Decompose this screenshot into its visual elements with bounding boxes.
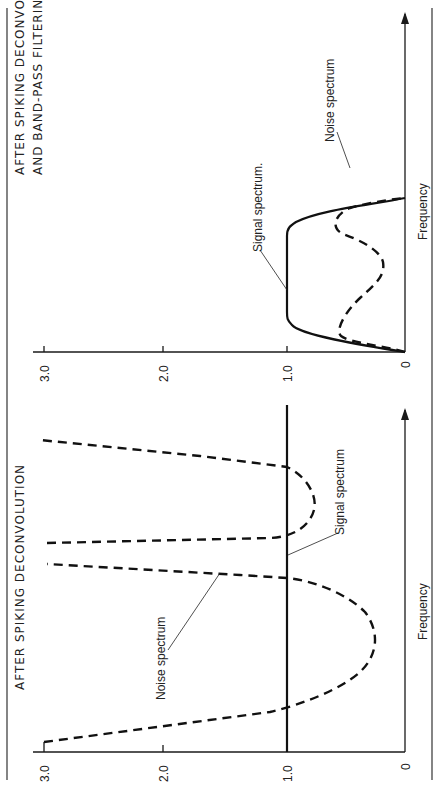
top-noise-curve <box>336 198 405 352</box>
bottom-noise-curve-lobe1 <box>44 564 375 742</box>
top-signal-label: Signal spectrum. <box>251 163 265 252</box>
top-panel-title-line1: AFTER SPIKING DECONVOLUTION <box>13 0 27 175</box>
top-signal-leader <box>260 250 287 290</box>
bottom-frequency-label: Frequency <box>416 583 430 640</box>
top-tick-label-3: 3.0 <box>38 365 52 382</box>
bottom-tick-label-2: 2.0 <box>157 765 171 782</box>
bottom-tick-label-3: 3.0 <box>38 765 52 782</box>
figure-canvas: AFTER SPIKING DECONVOLUTION AND BAND-PAS… <box>0 0 439 790</box>
top-panel: AFTER SPIKING DECONVOLUTION AND BAND-PAS… <box>13 0 430 382</box>
top-tick-label-1: 1.0 <box>281 365 295 382</box>
top-frequency-arrow-icon <box>401 12 409 24</box>
bottom-panel: AFTER SPIKING DECONVOLUTION 3.0 2.0 1.0 … <box>13 405 430 782</box>
bottom-frequency-arrow-icon <box>401 408 409 420</box>
top-noise-label: Noise spectrum <box>323 59 337 142</box>
bottom-tick-label-0: 0 <box>399 763 413 770</box>
top-signal-curve <box>287 198 405 352</box>
top-frequency-label: Frequency <box>416 183 430 240</box>
top-panel-title-line2: AND BAND-PASS FILTERING <box>31 0 45 175</box>
bottom-noise-label: Noise spectrum <box>154 617 168 700</box>
bottom-signal-label: Signal spectrum <box>333 449 347 535</box>
top-noise-leader <box>337 132 350 168</box>
top-tick-label-0: 0 <box>399 361 413 368</box>
bottom-noise-leader <box>168 573 220 650</box>
bottom-signal-leader <box>288 533 338 555</box>
bottom-panel-title: AFTER SPIKING DECONVOLUTION <box>13 464 27 690</box>
bottom-noise-curve-lobe2 <box>40 440 315 543</box>
bottom-tick-label-1: 1.0 <box>281 765 295 782</box>
top-tick-label-2: 2.0 <box>157 365 171 382</box>
